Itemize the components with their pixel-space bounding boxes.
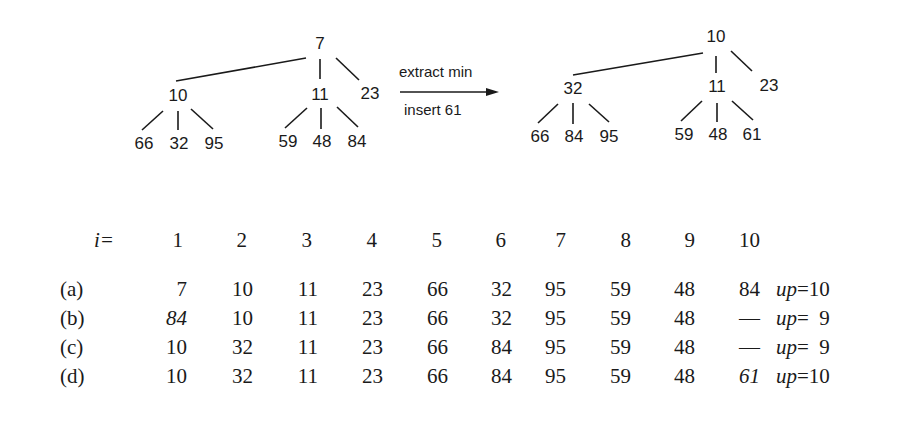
index-header: 4 bbox=[367, 228, 378, 253]
heap-array-table: i= 1 2 3 4 5 6 7 8 9 10 (a) 7 10 11 23 6… bbox=[0, 0, 904, 422]
index-header: 2 bbox=[237, 228, 248, 253]
table-cell: 66 bbox=[427, 306, 448, 331]
index-header: 1 bbox=[173, 228, 184, 253]
up-value: up= 9 bbox=[776, 306, 830, 331]
table-cell: 84 bbox=[491, 364, 512, 389]
table-cell: 10 bbox=[166, 364, 187, 389]
table-cell: 95 bbox=[545, 306, 566, 331]
up-value: up=10 bbox=[776, 277, 830, 302]
table-cell: 32 bbox=[491, 306, 512, 331]
row-label: (d) bbox=[60, 364, 85, 389]
row-label: (c) bbox=[60, 335, 83, 360]
table-cell: 23 bbox=[362, 277, 383, 302]
index-header: 7 bbox=[556, 228, 567, 253]
table-cell: 48 bbox=[674, 306, 695, 331]
up-label: up bbox=[776, 364, 797, 388]
table-cell: 59 bbox=[610, 335, 631, 360]
index-header: 5 bbox=[432, 228, 443, 253]
table-cell: 84 bbox=[491, 335, 512, 360]
table-cell: 10 bbox=[166, 335, 187, 360]
up-value: up= 9 bbox=[776, 335, 830, 360]
row-label: (a) bbox=[60, 277, 83, 302]
table-cell: 61 bbox=[739, 364, 760, 389]
table-cell: — bbox=[739, 335, 760, 360]
row-label: (b) bbox=[60, 306, 85, 331]
up-number: = 9 bbox=[797, 335, 830, 359]
table-cell: 23 bbox=[362, 306, 383, 331]
table-cell: 11 bbox=[298, 335, 318, 360]
table-cell: 32 bbox=[232, 335, 253, 360]
table-cell: 11 bbox=[298, 364, 318, 389]
table-cell: 66 bbox=[427, 335, 448, 360]
index-header: 3 bbox=[302, 228, 313, 253]
index-header: 9 bbox=[685, 228, 696, 253]
up-label: up bbox=[776, 335, 797, 359]
table-cell: 48 bbox=[674, 335, 695, 360]
table-cell: 59 bbox=[610, 306, 631, 331]
table-cell: 10 bbox=[232, 306, 253, 331]
table-cell: 59 bbox=[610, 277, 631, 302]
table-cell: 11 bbox=[298, 277, 318, 302]
table-cell: 95 bbox=[545, 277, 566, 302]
table-cell: 23 bbox=[362, 364, 383, 389]
table-cell: 7 bbox=[177, 277, 188, 302]
table-cell: 32 bbox=[232, 364, 253, 389]
table-cell: 59 bbox=[610, 364, 631, 389]
up-label: up bbox=[776, 277, 797, 301]
table-cell: 23 bbox=[362, 335, 383, 360]
index-header: 10 bbox=[739, 228, 760, 253]
up-number: =10 bbox=[797, 364, 830, 388]
table-cell: 48 bbox=[674, 364, 695, 389]
up-number: =10 bbox=[797, 277, 830, 301]
table-cell: 11 bbox=[298, 306, 318, 331]
table-cell: — bbox=[739, 306, 760, 331]
table-cell: 95 bbox=[545, 364, 566, 389]
index-label: i= bbox=[94, 228, 114, 253]
table-cell: 32 bbox=[491, 277, 512, 302]
index-header: 8 bbox=[621, 228, 632, 253]
up-value: up=10 bbox=[776, 364, 830, 389]
table-cell: 10 bbox=[232, 277, 253, 302]
up-label: up bbox=[776, 306, 797, 330]
index-header: 6 bbox=[496, 228, 507, 253]
table-cell: 84 bbox=[166, 306, 187, 331]
table-cell: 66 bbox=[427, 277, 448, 302]
table-cell: 95 bbox=[545, 335, 566, 360]
up-number: = 9 bbox=[797, 306, 830, 330]
table-cell: 48 bbox=[674, 277, 695, 302]
table-cell: 84 bbox=[739, 277, 760, 302]
table-cell: 66 bbox=[427, 364, 448, 389]
